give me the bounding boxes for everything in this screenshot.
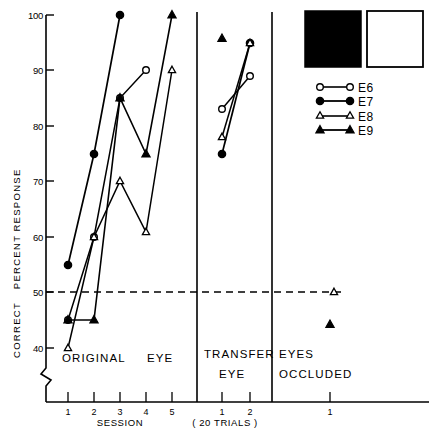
legend-entry-E7: E7	[316, 95, 373, 109]
panel-dividers	[197, 12, 272, 402]
legend-entry-E6: E6	[317, 81, 374, 95]
y-tick-label-70: 70	[33, 176, 43, 187]
legend-entry-E8: E8	[316, 110, 373, 124]
x-tick-label-s2: 2	[91, 407, 96, 417]
data-point-E8-t1	[218, 133, 225, 139]
x-tick-label-s4: 4	[143, 407, 148, 417]
legend-entry-E9: E9	[316, 124, 374, 138]
x-axis: 1 2 3 4 5 1 2 1 SESSION ( 20 TRIALS )	[46, 392, 429, 428]
y-axis: 100 90 80 70 60 50 40	[28, 10, 54, 402]
data-point-E7-s3	[116, 11, 123, 18]
legend-label-e8: E8	[358, 110, 373, 124]
y-tick-label-40: 40	[33, 343, 43, 354]
series-E8	[64, 39, 337, 350]
legend: E6 E7 E8 E9	[316, 81, 374, 138]
x-tick-label-t1: 1	[219, 407, 224, 417]
y-axis-title: RESPONSE PERCENT CORRECT	[11, 168, 22, 358]
legend-label-e7: E7	[358, 95, 373, 109]
y-tick-label-90: 90	[33, 65, 43, 76]
x-axis-title-trials: ( 20 TRIALS )	[192, 417, 258, 428]
data-point-E8-s4	[142, 228, 149, 234]
y-axis-title-percent: PERCENT	[11, 235, 22, 290]
legend-label-e9: E9	[358, 124, 373, 138]
y-axis-title-response: RESPONSE	[11, 168, 22, 231]
data-point-E8-s5	[168, 66, 175, 72]
data-point-E7-s1	[64, 261, 71, 268]
panel-label-occluded-line1: EYES	[279, 348, 314, 360]
data-point-E9-s4	[142, 150, 150, 158]
data-point-E9-o1	[326, 320, 334, 328]
data-point-E9-t1	[218, 34, 226, 42]
panel-label-original-line1: ORIGINAL	[62, 352, 126, 364]
chart-figure: 100 90 80 70 60 50 40 RESPONSE PERCENT C…	[0, 0, 429, 429]
legend-marker-open-triangle-end-icon	[346, 112, 353, 118]
data-point-E7-s2	[90, 150, 97, 157]
data-point-E6-t1	[219, 106, 226, 113]
legend-marker-filled-circle-icon	[316, 97, 323, 104]
legend-marker-open-triangle-icon	[316, 112, 323, 118]
panel-label-transfer-line2: EYE	[219, 368, 245, 380]
x-axis-title-session: SESSION	[97, 417, 143, 428]
x-tick-label-o1: 1	[327, 407, 332, 417]
series-E9	[64, 11, 334, 328]
panel-label-original-line2: EYE	[147, 352, 173, 364]
legend-label-e6: E6	[358, 81, 373, 95]
data-point-E7-t1	[218, 150, 225, 157]
panel-label-transfer-line1: TRANSFER	[204, 348, 275, 360]
data-point-E8-s3	[116, 177, 123, 183]
y-tick-label-50: 50	[33, 287, 43, 298]
data-point-E9-s5	[168, 11, 176, 19]
legend-marker-filled-circle-end-icon	[346, 97, 353, 104]
y-tick-label-60: 60	[33, 232, 43, 243]
y-axis-title-correct: CORRECT	[11, 302, 22, 358]
white-square-icon	[367, 11, 423, 67]
data-point-E8-s1	[64, 344, 71, 350]
x-tick-label-s5: 5	[169, 407, 174, 417]
data-point-E6-t2	[247, 73, 254, 80]
legend-marker-open-circle-icon	[317, 84, 324, 91]
panel-label-occluded-line2: OCCLUDED	[279, 368, 352, 380]
x-tick-label-s1: 1	[65, 407, 70, 417]
panel-labels: ORIGINAL EYE TRANSFER EYE EYES OCCLUDED	[62, 348, 352, 380]
y-tick-label-100: 100	[28, 10, 43, 21]
axis-break-icon	[41, 360, 51, 394]
x-tick-label-t2: 2	[247, 407, 252, 417]
legend-marker-open-circle-end-icon	[347, 84, 354, 91]
y-tick-label-80: 80	[33, 121, 43, 132]
data-point-E6-s4	[143, 67, 150, 74]
data-point-E8-o1	[330, 288, 337, 294]
series-E6	[65, 67, 254, 324]
chart-svg: 100 90 80 70 60 50 40 RESPONSE PERCENT C…	[0, 0, 429, 429]
legend-swatches	[305, 11, 423, 67]
x-tick-label-s3: 3	[117, 407, 122, 417]
black-square-icon	[305, 11, 361, 67]
